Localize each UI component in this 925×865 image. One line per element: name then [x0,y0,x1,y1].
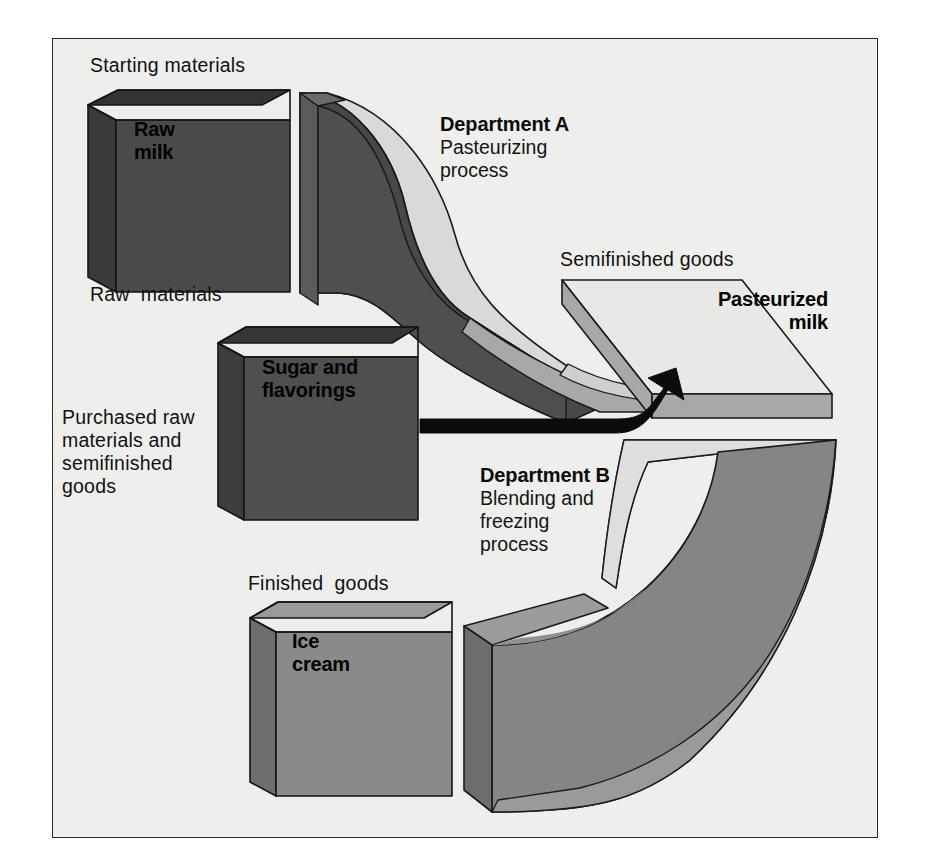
department-b-title: Department B [480,463,610,487]
box-ice-cream [250,602,452,796]
diagram-canvas: Starting materials Raw milk Raw material… [0,0,925,865]
department-a-subtitle: Pasteurizing process [440,136,569,182]
label-purchased-raw-materials: Purchased raw materials and semifinished… [62,406,195,498]
box-raw-milk [88,90,290,292]
department-b-subtitle: Blending and freezing process [480,487,610,556]
box-label-ice-cream: Ice cream [292,630,350,676]
label-raw-materials: Raw materials [90,283,222,306]
department-b-annotation: Department B Blending and freezing proce… [480,463,610,556]
department-a-annotation: Department A Pasteurizing process [440,112,569,182]
box-label-pasteurized-milk: Pasteurized milk [672,288,828,334]
department-a-title: Department A [440,112,569,136]
box-label-sugar-flavorings: Sugar and flavorings [262,356,358,402]
label-starting-materials: Starting materials [90,54,245,77]
label-finished-goods: Finished goods [248,572,389,595]
label-semifinished-goods: Semifinished goods [560,248,734,271]
box-label-raw-milk: Raw milk [134,118,175,164]
